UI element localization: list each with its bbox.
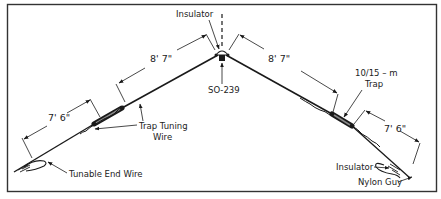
dimension-label: 8' 7" [150, 53, 172, 64]
label-so239: SO-239 [208, 85, 240, 95]
dimension-label: 8' 7" [268, 53, 290, 64]
label-end-insulator: Insulator [336, 162, 374, 172]
label-trap-2: Trap [364, 79, 383, 89]
dimension-right-inner: 8' 7" [229, 34, 338, 112]
dimension-left-inner: 8' 7" [116, 34, 215, 102]
antenna-diagram: 8' 7" 7' 6" 8' 7" 7' 6" Insulator SO-239… [0, 0, 441, 199]
label-nylon-guy: Nylon Guy [358, 177, 402, 187]
label-trap-tuning-wire-2: Wire [153, 132, 172, 142]
dimension-label: 7' 6" [384, 123, 406, 134]
label-center-insulator: Insulator [176, 9, 214, 19]
left-trap-tuning-wire [80, 106, 124, 134]
center-insulator [215, 51, 230, 61]
so239-connector [219, 55, 225, 61]
label-tunable-end-wire: Tunable End Wire [68, 169, 143, 179]
label-trap-1: 10/15 – m [355, 68, 397, 78]
label-trap-tuning-wire-1: Trap Tuning [138, 121, 188, 131]
left-antenna-leg [14, 55, 218, 172]
dimension-label: 7' 6" [48, 112, 70, 123]
